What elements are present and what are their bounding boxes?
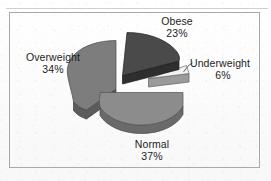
pie-label-overweight: Overweight 34% <box>18 52 88 75</box>
pie-label-underweight-percent: 6% <box>190 70 256 82</box>
pie-label-obese-name: Obese <box>161 15 192 27</box>
pie-label-normal-name: Normal <box>135 138 169 150</box>
pie-label-underweight: Underweight 6% <box>190 58 256 81</box>
pie-label-normal-percent: 37% <box>128 151 176 163</box>
pie-label-underweight-name: Underweight <box>190 57 250 69</box>
pie-label-overweight-percent: 34% <box>18 64 88 76</box>
pie-label-obese-percent: 23% <box>155 28 199 40</box>
pie-chart-figure: Obese 23% Underweight 6% Overweight 34% … <box>0 0 271 181</box>
pie-slice-normal[interactable] <box>99 93 183 134</box>
pie-label-overweight-name: Overweight <box>26 51 80 63</box>
pie-label-normal: Normal 37% <box>128 139 176 162</box>
pie-label-obese: Obese 23% <box>155 16 199 39</box>
